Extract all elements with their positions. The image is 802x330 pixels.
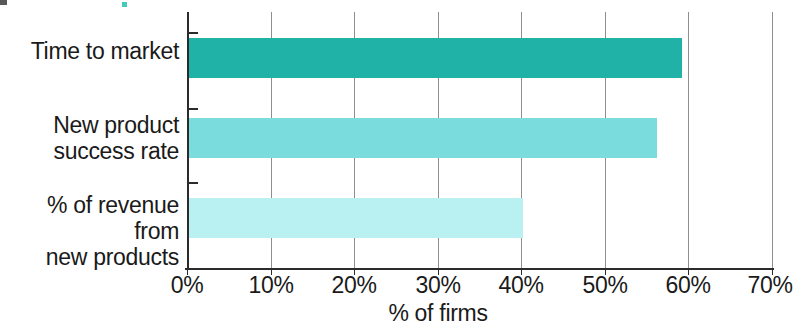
xtick-label-10: 10% — [248, 272, 293, 298]
bar-time-to-market — [189, 38, 682, 78]
x-axis-title: % of firms — [388, 300, 487, 326]
category-tick-1 — [189, 108, 198, 110]
gridline-60 — [688, 12, 689, 268]
bar-pct-revenue-new-products — [189, 198, 523, 238]
bar-new-product-success-rate — [189, 118, 657, 158]
xtick-label-30: 30% — [415, 272, 460, 298]
category-label-pct-revenue-new-products: % of revenue from new products — [0, 192, 179, 270]
xtick-label-0: 0% — [171, 272, 204, 298]
category-tick-top — [189, 32, 198, 34]
bar-chart: Time to market New product success rate … — [0, 0, 802, 330]
category-tick-2 — [189, 182, 198, 184]
value-axis-line — [185, 268, 774, 270]
gridline-70 — [772, 12, 773, 268]
xtick-label-20: 20% — [331, 272, 376, 298]
plot-area — [187, 12, 772, 268]
category-label-new-product-success-rate: New product success rate — [53, 112, 179, 164]
crop-artifact-dot — [122, 2, 127, 7]
xtick-label-60: 60% — [665, 272, 710, 298]
category-label-time-to-market: Time to market — [31, 38, 179, 64]
xtick-label-50: 50% — [582, 272, 627, 298]
xtick-label-40: 40% — [498, 272, 543, 298]
crop-artifact-mark — [0, 0, 7, 5]
xtick-label-70: 70% — [747, 272, 792, 298]
